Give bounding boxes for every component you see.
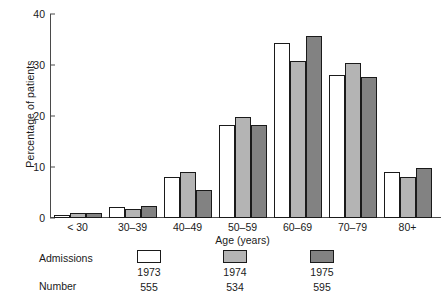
bar-group [380,14,435,218]
x-axis-tick-label: 60–69 [270,221,325,233]
legend-number-value: 534 [190,281,280,294]
y-axis-title: Percentage of patients [24,29,36,199]
x-axis-title: Age (years) [50,234,435,246]
legend-number-value: 595 [277,281,367,294]
bar [416,168,432,218]
bar [141,206,157,218]
legend-entry: 1973555 [104,250,194,294]
bar [235,117,251,218]
plot-area: 010203040 [50,14,435,218]
legend-swatch [137,250,161,263]
legend-entry: 1974534 [190,250,280,294]
y-axis-tick-label: 0 [39,212,45,224]
legend-swatch [310,250,334,263]
x-axis-tick-label: 50–59 [215,221,270,233]
legend-swatch [223,250,247,263]
x-axis-tick-labels: < 3030–3940–4950–5960–6970–7980+ [50,221,435,233]
bar-group [325,14,380,218]
bars-layer [50,14,435,218]
bar-group [270,14,325,218]
legend-row-label-admissions: Admissions [39,252,93,264]
bar [164,177,180,218]
bar [180,172,196,218]
bar [219,125,235,218]
legend-year-label: 1973 [104,266,194,279]
bar [54,215,70,218]
legend-entry: 1975595 [277,250,367,294]
bar-group [105,14,160,218]
bar-group [215,14,270,218]
legend-year-label: 1974 [190,266,280,279]
bar [125,209,141,218]
bar [274,43,290,218]
bar-group [50,14,105,218]
legend-number-value: 555 [104,281,194,294]
legend-row-label-number: Number [39,280,76,292]
bar [400,177,416,218]
legend: Admissions Number 197355519745341975595 [0,250,439,297]
bar [384,172,400,218]
bar [109,207,125,218]
bar [306,36,322,218]
bar [361,77,377,218]
bar [329,75,345,218]
x-axis-tick-label: < 30 [50,221,105,233]
bar [86,213,102,218]
bar [290,61,306,218]
legend-year-label: 1975 [277,266,367,279]
bar [196,190,212,218]
x-axis-tick-label: 70–79 [325,221,380,233]
x-axis-tick-label: 40–49 [160,221,215,233]
x-axis-tick-label: 30–39 [105,221,160,233]
bar [345,63,361,218]
bar-group [160,14,215,218]
bar [251,125,267,218]
y-axis-tick-label: 40 [33,8,45,20]
x-axis-tick-label: 80+ [380,221,435,233]
bar [70,213,86,218]
